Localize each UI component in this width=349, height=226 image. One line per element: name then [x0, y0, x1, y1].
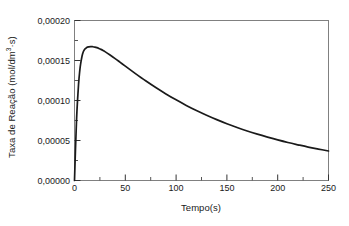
x-tick-label: 250	[321, 183, 336, 193]
x-tick-label: 200	[270, 183, 285, 193]
data-series-line	[75, 47, 329, 181]
plot-frame	[75, 21, 329, 181]
reaction-rate-chart: 0,000000,000050,000100,000150,00020 Taxa…	[0, 0, 349, 226]
x-tick-label: 50	[120, 183, 130, 193]
x-tick-label: 100	[169, 183, 184, 193]
x-tick-label: 150	[219, 183, 234, 193]
x-tick-label: 0	[72, 183, 77, 193]
